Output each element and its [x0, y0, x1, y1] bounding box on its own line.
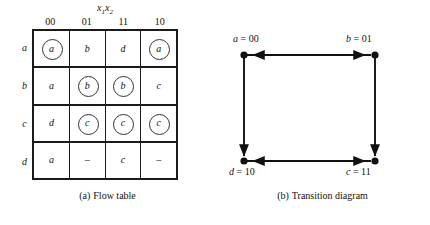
flow-cell-value: a	[49, 81, 54, 91]
flow-cell-value: a	[49, 155, 54, 165]
node-state-b: b	[346, 33, 351, 44]
column-header-11: 11	[105, 15, 142, 28]
flow-cell-value: c	[156, 118, 160, 128]
caption-label: (a)	[79, 190, 90, 201]
node-label-b: b = 01	[346, 33, 372, 44]
node-label-c: c = 11	[346, 166, 371, 177]
flow-cell-value: b	[85, 81, 90, 91]
row-header-a: a	[18, 29, 31, 67]
figure-container: x1x2 00 01 11 10 a b c d a b d a a b b	[0, 0, 430, 225]
flow-cell-d-01: –	[70, 143, 106, 178]
column-header-00: 00	[32, 15, 69, 28]
caption-text: Flow table	[93, 190, 136, 201]
flow-cell-value: c	[121, 118, 125, 128]
caption-label: (b)	[277, 190, 289, 201]
flow-cell-a-00: a	[34, 31, 70, 66]
row-header-c: c	[18, 105, 31, 143]
node-b	[371, 51, 378, 58]
table-row: a b b c	[34, 68, 176, 105]
node-a	[240, 51, 247, 58]
flow-cell-value: d	[120, 44, 125, 54]
node-state-a: a	[233, 33, 238, 44]
node-equals: =	[237, 166, 243, 177]
flow-table-caption: (a)Flow table	[0, 190, 215, 201]
node-state-c: c	[346, 166, 350, 177]
table-row: a b d a	[34, 31, 176, 68]
node-state-d: d	[229, 166, 234, 177]
flow-cell-b-11: b	[106, 68, 142, 103]
node-label-a: a = 00	[233, 33, 259, 44]
flow-cell-value: c	[85, 118, 89, 128]
flow-table-grid: a b d a a b b c d c c c a – c –	[32, 29, 178, 180]
flow-cell-a-11: d	[106, 31, 142, 66]
flow-cell-c-00: d	[34, 106, 70, 141]
node-code-c: 11	[361, 166, 371, 177]
node-c	[371, 157, 378, 164]
flow-cell-value: a	[156, 44, 161, 54]
node-equals: =	[241, 33, 247, 44]
flow-table-row-headers: a b c d	[18, 29, 31, 180]
transition-diagram-panel: a = 00 b = 01 d = 10 c = 11 (b)Transitio…	[215, 0, 430, 225]
table-row: d c c c	[34, 106, 176, 143]
node-code-b: 01	[362, 33, 372, 44]
flow-cell-c-10: c	[141, 106, 176, 141]
transition-diagram-caption: (b)Transition diagram	[215, 190, 430, 201]
input-variable-x2: x2	[105, 2, 113, 13]
flow-cell-c-01: c	[70, 106, 106, 141]
flow-cell-value: a	[49, 44, 54, 54]
node-equals: =	[354, 33, 360, 44]
flow-cell-value: c	[156, 81, 160, 91]
row-header-d: d	[18, 142, 31, 180]
flow-cell-b-10: c	[141, 68, 176, 103]
flow-cell-a-01: b	[70, 31, 106, 66]
input-variable-x1: x1	[97, 2, 105, 13]
flow-table-column-headers: 00 01 11 10	[32, 15, 178, 28]
flow-cell-c-11: c	[106, 106, 142, 141]
caption-text: Transition diagram	[292, 190, 368, 201]
flow-cell-b-01: b	[70, 68, 106, 103]
flow-cell-value: c	[121, 155, 125, 165]
flow-cell-value: d	[49, 118, 54, 128]
flow-cell-d-00: a	[34, 143, 70, 178]
column-header-10: 10	[142, 15, 179, 28]
flow-cell-value: –	[85, 155, 90, 165]
flow-cell-a-10: a	[141, 31, 176, 66]
transition-diagram-svg	[215, 0, 430, 190]
node-code-a: 00	[249, 33, 259, 44]
table-row: a – c –	[34, 143, 176, 178]
node-label-d: d = 10	[229, 166, 255, 177]
node-code-d: 10	[245, 166, 255, 177]
flow-cell-d-11: c	[106, 143, 142, 178]
node-equals: =	[353, 166, 359, 177]
flow-cell-value: b	[120, 81, 125, 91]
flow-table-panel: x1x2 00 01 11 10 a b c d a b d a a b b	[0, 0, 215, 225]
flow-cell-b-00: a	[34, 68, 70, 103]
row-header-b: b	[18, 67, 31, 105]
flow-cell-d-10: –	[141, 143, 176, 178]
node-d	[240, 157, 247, 164]
flow-cell-value: b	[85, 44, 90, 54]
column-header-01: 01	[69, 15, 106, 28]
flow-cell-value: –	[156, 155, 161, 165]
